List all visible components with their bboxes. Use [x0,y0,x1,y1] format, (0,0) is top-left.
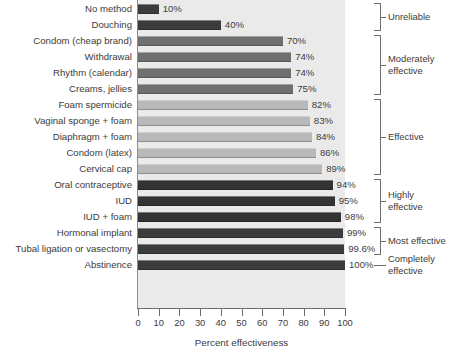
group-label: Highlyeffective [388,189,456,212]
group-bracket-tick [381,65,386,66]
x-axis-title: Percent effectiveness [138,337,345,348]
group-bracket [374,99,381,175]
group-bracket-tick [381,17,386,18]
group-bracket [374,3,381,31]
effectiveness-bar-chart: No method10%Douching40%Condom (cheap bra… [0,0,456,360]
group-label: Unreliable [388,11,456,23]
group-label-line: Moderately [388,53,456,65]
group-label: Effective [388,131,456,143]
group-label-line: effective [388,265,456,277]
group-label-line: Unreliable [388,11,456,23]
group-bracket [374,35,381,95]
group-label: Completelyeffective [388,253,456,276]
group-leader-line [374,265,386,266]
group-label-line: Highly [388,189,456,201]
group-label: Most effective [388,235,456,247]
group-label-line: Effective [388,131,456,143]
group-bracket [374,227,381,255]
group-bracket-tick [381,241,386,242]
group-brackets: UnreliableModeratelyeffectiveEffectiveHi… [0,0,456,330]
group-bracket [374,179,381,223]
group-label-line: Most effective [388,235,456,247]
group-bracket-tick [381,201,386,202]
group-label-line: effective [388,201,456,213]
group-label-line: Completely [388,253,456,265]
group-label: Moderatelyeffective [388,53,456,76]
group-bracket-tick [381,137,386,138]
group-label-line: effective [388,65,456,77]
